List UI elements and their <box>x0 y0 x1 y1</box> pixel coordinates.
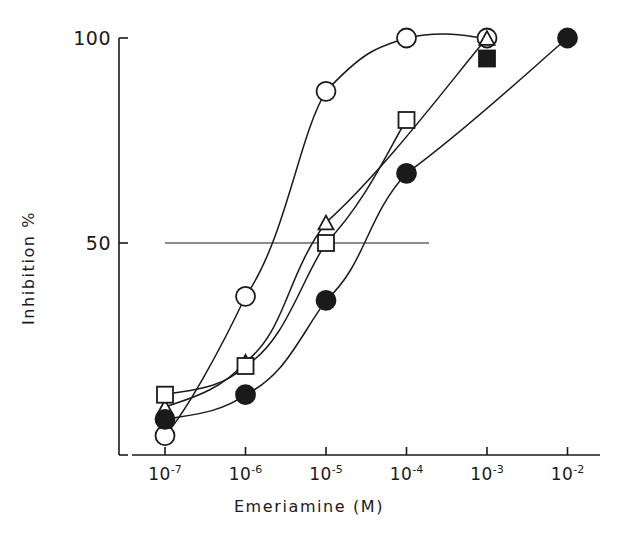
series-filled-circle <box>156 29 578 429</box>
x-tick-label: 10-4 <box>390 463 424 484</box>
series-open-square <box>157 112 415 403</box>
data-point-open-square <box>399 112 415 128</box>
x-tick-label: 10-2 <box>551 463 585 484</box>
data-point-filled-circle <box>156 410 175 429</box>
chart-axes <box>119 38 600 455</box>
x-axis-title: Emeriamine (M) <box>234 497 384 516</box>
data-point-filled-square <box>479 51 495 67</box>
data-point-filled-circle <box>236 385 255 404</box>
y-tick-label: 50 <box>86 232 111 254</box>
data-point-open-square <box>238 358 254 374</box>
data-point-open-circle <box>397 29 416 48</box>
data-point-open-square <box>318 235 334 251</box>
dose-response-chart: Emeriamine (M) Inhibition % 5010010-710-… <box>0 0 618 534</box>
x-tick-label: 10-3 <box>470 463 504 484</box>
data-point-open-circle <box>236 287 255 306</box>
x-tick-label: 10-6 <box>229 463 263 484</box>
series-filled-square <box>479 51 495 67</box>
data-point-filled-circle <box>558 29 577 48</box>
data-point-open-circle <box>317 82 336 101</box>
y-tick-label: 100 <box>73 27 111 49</box>
data-point-filled-circle <box>317 291 336 310</box>
series-line-open-square <box>165 120 407 395</box>
data-point-open-square <box>157 387 173 403</box>
data-point-filled-circle <box>397 164 416 183</box>
x-tick-label: 10-7 <box>148 463 182 484</box>
chart-canvas <box>0 0 618 534</box>
series-layer <box>156 29 578 446</box>
x-tick-label: 10-5 <box>309 463 343 484</box>
y-axis-title: Inhibition % <box>19 211 38 325</box>
series-line-filled-circle <box>165 38 568 419</box>
